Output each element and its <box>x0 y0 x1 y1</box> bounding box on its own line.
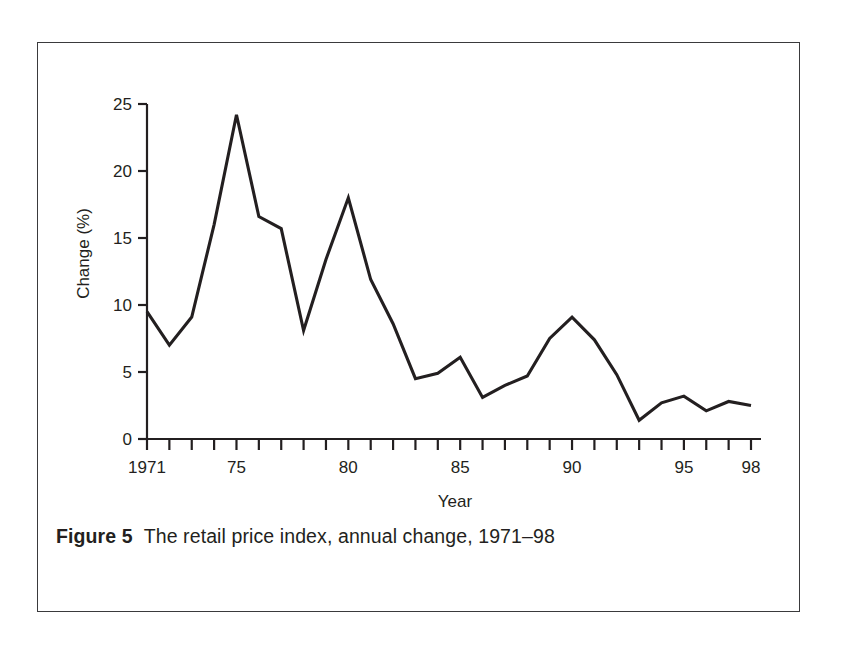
data-series-line <box>147 115 751 421</box>
y-axis: 0510152025 <box>113 95 147 449</box>
figure-caption-label: Figure 5 <box>56 525 133 547</box>
x-axis-tick-label: 80 <box>339 458 358 477</box>
x-axis-tick-label: 75 <box>227 458 246 477</box>
y-axis-tick-label: 0 <box>123 430 132 449</box>
figure-caption-text: The retail price index, annual change, 1… <box>133 525 555 547</box>
x-axis-title: Year <box>438 492 473 511</box>
x-axis-tick-label: 90 <box>563 458 582 477</box>
y-axis-tick-label: 5 <box>123 363 132 382</box>
x-axis-tick-label: 85 <box>451 458 470 477</box>
y-axis-tick-label: 10 <box>113 296 132 315</box>
series-polyline <box>147 115 751 421</box>
x-axis-tick-label: 95 <box>674 458 693 477</box>
y-axis-tick-label: 20 <box>113 162 132 181</box>
x-axis-tick-label: 98 <box>742 458 761 477</box>
y-axis-title: Change (%) <box>74 208 93 299</box>
figure-root: 0510152025 1971758085909598 YearChange (… <box>0 0 841 646</box>
y-axis-tick-label: 25 <box>113 95 132 114</box>
x-axis-tick-label: 1971 <box>128 458 166 477</box>
x-axis: 1971758085909598 <box>128 439 761 477</box>
figure-caption: Figure 5 The retail price index, annual … <box>56 525 756 548</box>
y-axis-tick-label: 15 <box>113 229 132 248</box>
figure-caption-body: The retail price index, annual change, 1… <box>144 525 555 547</box>
